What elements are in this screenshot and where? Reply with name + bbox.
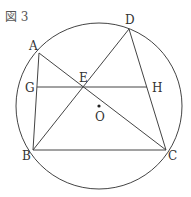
segment-BD — [33, 29, 129, 150]
segment-AC — [39, 53, 166, 150]
geometry-diagram — [0, 0, 191, 197]
segment-AB — [33, 53, 39, 150]
center-point-O — [97, 104, 100, 107]
label-D: D — [125, 14, 135, 26]
label-G: G — [25, 82, 35, 94]
label-O: O — [95, 111, 105, 123]
label-C: C — [168, 150, 177, 162]
label-E: E — [79, 72, 88, 84]
label-A: A — [29, 40, 38, 52]
label-H: H — [152, 82, 162, 94]
label-B: B — [22, 150, 31, 162]
